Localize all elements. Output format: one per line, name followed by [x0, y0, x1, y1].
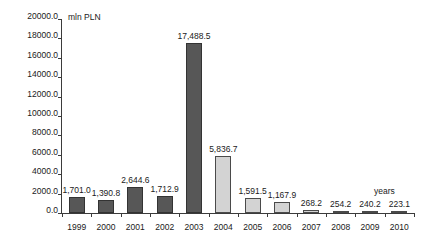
- x-axis-tick-label: 2002: [155, 222, 174, 232]
- x-axis-tick-label: 2004: [214, 222, 233, 232]
- y-axis-tick-label: 8000.0: [32, 128, 58, 137]
- bar-chart: mln PLN years 20000.018000.016000.014000…: [0, 0, 424, 250]
- y-axis-tick-label: 16000.0: [27, 51, 58, 60]
- x-axis-tick-label: 1999: [67, 222, 86, 232]
- bar: [362, 211, 378, 213]
- x-axis-tick-label: 2008: [331, 222, 350, 232]
- bar: [303, 210, 319, 213]
- y-axis-tick-label: 14000.0: [27, 70, 58, 79]
- bar: [186, 43, 202, 213]
- y-axis-tick-label: 0.0: [46, 206, 58, 215]
- bar-value-label: 254.2: [330, 199, 351, 209]
- x-axis-tick-label: 2006: [273, 222, 292, 232]
- x-axis-tick-label: 2001: [126, 222, 145, 232]
- bar-group: 254.2: [326, 19, 355, 213]
- x-axis-tick-mark: [414, 213, 415, 217]
- bar-group: 1,701.0: [62, 19, 91, 213]
- bar: [127, 187, 143, 213]
- x-axis-tick-mark: [355, 213, 356, 217]
- bar-value-label: 5,836.7: [209, 144, 237, 154]
- bar: [69, 197, 85, 213]
- x-axis-tick-mark: [238, 213, 239, 217]
- bar-value-label: 1,591.5: [238, 186, 266, 196]
- y-axis-tick-label: 10000.0: [27, 109, 58, 118]
- x-axis-tick-mark: [209, 213, 210, 217]
- y-axis-tick-label: 12000.0: [27, 90, 58, 99]
- plot-area: 1,701.01,390.82,644.61,712.917,488.55,83…: [62, 19, 414, 213]
- x-axis-tick-label: 2000: [97, 222, 116, 232]
- x-axis-tick-mark: [91, 213, 92, 217]
- bar-group: 1,591.5: [238, 19, 267, 213]
- x-axis-tick-mark: [297, 213, 298, 217]
- bar-value-label: 1,712.9: [150, 184, 178, 194]
- bar-value-label: 1,390.8: [92, 188, 120, 198]
- y-axis-tick-label: 2000.0: [32, 187, 58, 196]
- x-axis-tick-mark: [62, 213, 63, 217]
- bar-group: 268.2: [297, 19, 326, 213]
- bar-value-label: 223.1: [389, 199, 410, 209]
- y-axis-tick-label: 6000.0: [32, 148, 58, 157]
- x-axis-tick-mark: [326, 213, 327, 217]
- bar: [98, 200, 114, 213]
- bar: [157, 196, 173, 213]
- x-axis-tick-mark: [150, 213, 151, 217]
- bar-group: 1,390.8: [91, 19, 120, 213]
- bar-value-label: 1,167.9: [268, 190, 296, 200]
- bar-group: 223.1: [385, 19, 414, 213]
- x-axis-tick-label: 2010: [390, 222, 409, 232]
- bar-value-label: 17,488.5: [177, 31, 210, 41]
- bar-group: 5,836.7: [209, 19, 238, 213]
- x-axis-tick-mark: [179, 213, 180, 217]
- bar-value-label: 2,644.6: [121, 175, 149, 185]
- bar-group: 1,167.9: [267, 19, 296, 213]
- bar-group: 240.2: [355, 19, 384, 213]
- bar-group: 1,712.9: [150, 19, 179, 213]
- bar: [274, 202, 290, 213]
- bar: [391, 211, 407, 213]
- bar: [245, 198, 261, 213]
- bar: [333, 211, 349, 213]
- bar-value-label: 268.2: [301, 198, 322, 208]
- y-axis-tick-label: 20000.0: [27, 12, 58, 21]
- x-axis-tick-mark: [385, 213, 386, 217]
- bar-group: 2,644.6: [121, 19, 150, 213]
- x-axis-tick-label: 2009: [361, 222, 380, 232]
- bar-value-label: 1,701.0: [62, 185, 90, 195]
- bar-group: 17,488.5: [179, 19, 208, 213]
- y-axis-tick-label: 4000.0: [32, 167, 58, 176]
- y-axis-tick-label: 18000.0: [27, 31, 58, 40]
- x-axis-tick-label: 2007: [302, 222, 321, 232]
- x-axis-tick-mark: [267, 213, 268, 217]
- bar: [215, 156, 231, 213]
- x-axis-tick-mark: [121, 213, 122, 217]
- x-axis-tick-label: 2005: [243, 222, 262, 232]
- x-axis-tick-label: 2003: [185, 222, 204, 232]
- bar-value-label: 240.2: [359, 199, 380, 209]
